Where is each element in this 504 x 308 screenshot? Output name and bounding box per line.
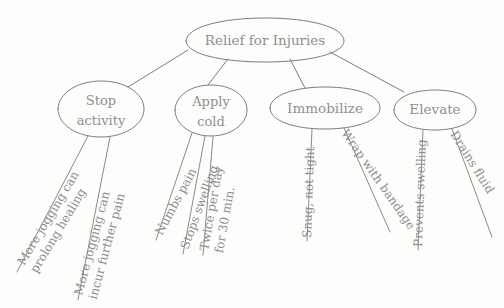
stop-activity-label-line2: activity: [77, 113, 126, 128]
edge-root-to-elevate: [330, 52, 404, 92]
node-root[interactable]: Relief for Injuries: [186, 18, 344, 62]
node-immobilize[interactable]: Immobilize: [270, 87, 380, 129]
stop-activity-ellipse-outline: [58, 81, 144, 137]
leaf-label-group: More jogging can prolong healing More jo…: [15, 127, 498, 301]
edge-root-to-stop-activity: [128, 50, 188, 87]
drains-fluid-line1: Drains fluid: [447, 128, 497, 196]
leaf-label-prevents-swelling: Prevents swelling: [411, 139, 429, 248]
node-stop-activity[interactable]: Stop activity: [58, 81, 144, 137]
root-edge-group: [128, 50, 404, 92]
root-label: Relief for Injuries: [205, 32, 326, 48]
apply-cold-label-line2: cold: [197, 114, 225, 129]
node-apply-cold[interactable]: Apply cold: [175, 85, 247, 136]
edge-root-to-immobilize: [290, 59, 305, 88]
immobilize-label: Immobilize: [287, 100, 363, 116]
leaf-label-wrap-with-bandage: Wrap with bandage: [339, 127, 419, 232]
stop-activity-label-line1: Stop: [86, 93, 116, 108]
elevate-label: Elevate: [409, 101, 460, 117]
concept-map-canvas: Relief for Injuries Stop activity Apply …: [0, 0, 504, 308]
wrap-with-bandage-line1: Wrap with bandage: [339, 127, 419, 232]
snug-not-tight-line1: Snug, not tight: [300, 146, 317, 238]
edge-root-to-apply-cold: [208, 59, 228, 85]
apply-cold-label-line1: Apply: [191, 94, 230, 109]
node-elevate[interactable]: Elevate: [394, 90, 476, 130]
prevents-swelling-line1: Prevents swelling: [411, 139, 429, 248]
leaf-label-drains-fluid: Drains fluid: [447, 128, 497, 196]
leaf-label-snug-not-tight: Snug, not tight: [300, 146, 317, 238]
diagram-svg: Relief for Injuries Stop activity Apply …: [0, 0, 504, 308]
